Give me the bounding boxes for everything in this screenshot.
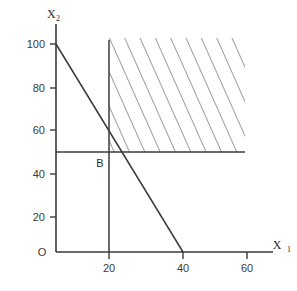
y-tick-label-60: 60 (33, 124, 45, 136)
y-axis-title-subscript: 2 (56, 14, 60, 23)
x-tick-label-60: 60 (241, 262, 253, 274)
point-label-b: B (96, 157, 103, 169)
figure-caption (0, 284, 297, 291)
y-tick-label-80: 80 (33, 82, 45, 94)
feasible-region (109, 38, 245, 152)
x-axis-title-subscript: 1 (287, 245, 291, 254)
y-tick-label-20: 20 (33, 211, 45, 223)
x-tick-label-20: 20 (103, 262, 115, 274)
chart-canvas: 100 80 60 40 20 20 40 60 O X 2 X 1 (0, 0, 297, 291)
y-axis-title-base: X (47, 7, 56, 21)
origin-label: O (38, 246, 47, 258)
x-axis-title-base: X (273, 238, 282, 252)
y-tick-label-100: 100 (27, 38, 45, 50)
y-tick-label-40: 40 (33, 168, 45, 180)
x-tick-label-40: 40 (177, 262, 189, 274)
chart-figure: 100 80 60 40 20 20 40 60 O X 2 X 1 (0, 0, 297, 291)
